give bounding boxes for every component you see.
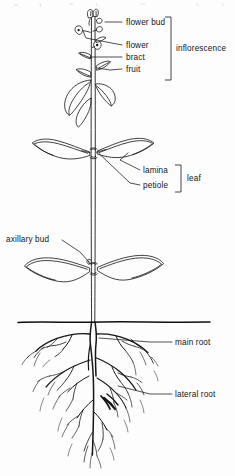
label-leaf: leaf: [187, 174, 201, 183]
lateral-roots-left-upper: [22, 334, 90, 366]
label-main-root: main root: [175, 338, 211, 347]
label-fruit: fruit: [126, 65, 141, 74]
label-lateral-root: lateral root: [175, 390, 216, 399]
upper-stem-leaves: [65, 80, 116, 127]
label-axillary-bud: axillary bud: [6, 235, 50, 244]
label-lamina: lamina: [143, 166, 168, 175]
leader-axillary-bud: [62, 240, 89, 262]
bracket-leaf: [175, 165, 181, 192]
main-root: [88, 322, 96, 455]
main-stem: [91, 16, 97, 322]
label-flower-bud: flower bud: [126, 18, 166, 27]
fine-root-hairs: [40, 360, 158, 460]
bract: [79, 52, 91, 58]
flower-bud-right: [93, 27, 103, 32]
inflorescence-spike: [65, 9, 116, 127]
lateral-roots-lower: [62, 400, 115, 468]
label-petiole: petiole: [143, 181, 168, 190]
fruit-left: [76, 69, 91, 77]
leaf-pair-lower: [24, 255, 163, 282]
lateral-roots-right-mid: [97, 358, 144, 422]
label-bract: bract: [126, 53, 146, 62]
soil-line: [18, 322, 210, 323]
label-layer: flower bud flower bract fruit infloresce…: [6, 18, 226, 399]
label-inflorescence: inflorescence: [176, 44, 226, 53]
scan-artifact-top: [14, 3, 224, 7]
label-flower: flower: [126, 41, 149, 50]
plant-structure-figure: flower bud flower bract fruit infloresce…: [0, 0, 235, 476]
root-system: [22, 322, 158, 468]
leader-main-root: [99, 338, 172, 342]
flower-left-upper: [75, 26, 91, 35]
diagram-canvas: flower bud flower bract fruit infloresce…: [0, 0, 235, 476]
bracket-inflorescence: [165, 17, 171, 80]
